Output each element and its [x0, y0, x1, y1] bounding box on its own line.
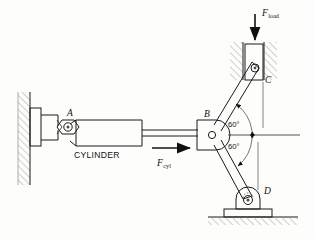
- label-joint-d: D: [263, 186, 271, 196]
- cylinder-rod: [142, 130, 198, 136]
- label-force-load: Fload: [261, 8, 280, 19]
- label-joint-a: A: [66, 108, 73, 118]
- label-angle-upper: 60°: [228, 120, 239, 129]
- slider-block-c: [245, 44, 263, 80]
- ground-line: [208, 217, 298, 225]
- angle-arc-lower: [238, 139, 252, 166]
- cylinder-barrel: [70, 120, 142, 146]
- label-angle-lower: 60°: [228, 142, 239, 151]
- vertical-construction-line: [258, 82, 263, 190]
- fixed-wall-support: [18, 92, 30, 185]
- label-force-cyl: Fcyl: [156, 158, 171, 169]
- label-joint-c: C: [265, 75, 272, 85]
- wall-bracket: [30, 108, 41, 146]
- label-cylinder: CYLINDER: [74, 150, 120, 160]
- figure-canvas: A B C D CYLINDER 60° 60° Fcyl Fload: [0, 0, 314, 239]
- bracket-arms: [41, 115, 58, 140]
- label-joint-b: B: [204, 109, 210, 119]
- mechanism-diagram: A B C D CYLINDER 60° 60° Fcyl Fload: [0, 0, 314, 239]
